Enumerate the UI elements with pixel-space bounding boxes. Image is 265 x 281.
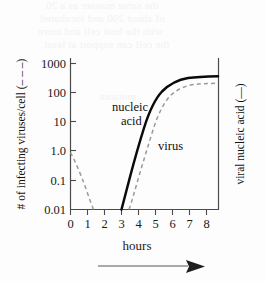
x-tick-label: 2 <box>101 217 107 231</box>
y-tick-label: 10 <box>54 115 67 129</box>
x-tick-label: 3 <box>118 217 124 231</box>
annotation-acid: acid <box>121 114 143 128</box>
y-tick-label: 0.01 <box>44 203 66 217</box>
y-tick-label: 1000 <box>41 57 66 71</box>
y-tick-marks <box>71 64 77 181</box>
x-tick-label: 5 <box>152 217 158 231</box>
x-tick-marks <box>71 210 207 216</box>
annotation-nucleic: nucleic <box>112 100 149 114</box>
y-axis-right-title: viral nucleic acid (—) <box>234 83 247 184</box>
x-tick-label: 6 <box>169 217 175 231</box>
y-axis-left-title: # of infecting viruses/cell (– – –) <box>15 58 28 209</box>
x-tick-label: 0 <box>67 217 73 231</box>
series-group <box>71 76 219 209</box>
right-arrow-icon <box>98 260 205 273</box>
y-tick-label: 0.1 <box>50 174 66 188</box>
x-tick-label: 8 <box>203 217 209 231</box>
y-tick-label: 1.0 <box>50 144 66 158</box>
annotation-virus: virus <box>158 139 183 153</box>
chart-canvas: 1000 100 10 1.0 0.1 0.01 0 1 2 3 4 5 6 7… <box>0 0 265 281</box>
virus-growth-figure: the same manner as a 20 of about 200 and… <box>0 0 265 281</box>
x-tick-label: 1 <box>84 217 90 231</box>
x-tick-label: 4 <box>135 217 142 231</box>
x-tick-label: 7 <box>186 217 192 231</box>
x-axis-title: hours <box>123 238 152 253</box>
y-tick-label: 100 <box>47 86 66 100</box>
